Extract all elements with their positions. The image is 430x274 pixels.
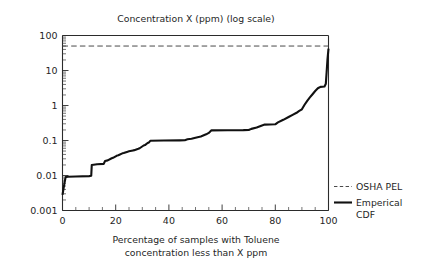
x-tick-label: 80 bbox=[269, 215, 281, 226]
x-axis-tick-labels: 020406080100 bbox=[59, 215, 337, 226]
plot-axes bbox=[63, 36, 329, 211]
x-axis-caption-line1: Percentage of samples with Toluene bbox=[112, 234, 279, 245]
series-empirical-cdf-line bbox=[63, 49, 329, 195]
chart-figure: Concentration X (ppm) (log scale) 0.0010… bbox=[0, 0, 430, 274]
legend-label-empirical-cdf: Emperical bbox=[356, 197, 402, 208]
x-tick-label: 60 bbox=[216, 215, 228, 226]
x-tick-label: 0 bbox=[59, 215, 65, 226]
chart-title: Concentration X (ppm) (log scale) bbox=[117, 13, 274, 24]
chart-legend: OSHA PEL Emperical CDF bbox=[334, 181, 403, 220]
legend-label-osha-pel: OSHA PEL bbox=[356, 181, 403, 192]
x-axis-ticks bbox=[63, 205, 329, 211]
y-tick-label: 0.001 bbox=[30, 205, 57, 216]
x-tick-label: 40 bbox=[163, 215, 175, 226]
x-tick-label: 100 bbox=[319, 215, 337, 226]
y-axis-tick-labels: 0.0010.010.1110100 bbox=[30, 30, 57, 216]
x-axis-caption-line2: concentration less than X ppm bbox=[125, 247, 268, 258]
legend-label-empirical-cdf-line2: CDF bbox=[356, 209, 375, 220]
y-tick-label: 1 bbox=[51, 100, 57, 111]
y-tick-label: 100 bbox=[39, 30, 57, 41]
y-tick-label: 0.1 bbox=[42, 135, 57, 146]
y-tick-label: 10 bbox=[45, 65, 57, 76]
concentration-cdf-chart: Concentration X (ppm) (log scale) 0.0010… bbox=[0, 0, 430, 274]
x-tick-label: 20 bbox=[110, 215, 122, 226]
y-tick-label: 0.01 bbox=[36, 170, 57, 181]
